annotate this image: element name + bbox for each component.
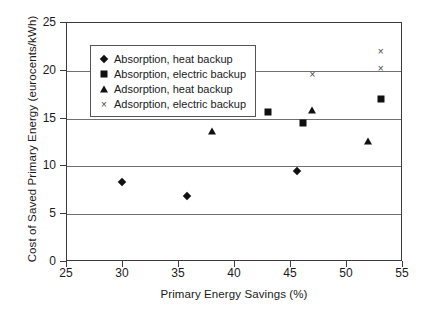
x-axis-tick-mark: [290, 261, 291, 267]
y-axis-tick-label: 5: [16, 207, 56, 219]
x-axis-tick-mark: [178, 261, 179, 267]
gridline: [67, 214, 401, 215]
x-axis-tick-mark: [402, 261, 403, 267]
y-axis-title: Cost of Saved Primary Energy (eurocents/…: [26, 14, 38, 264]
x-axis-tick-label: 45: [270, 267, 310, 279]
x-axis-tick-mark: [234, 261, 235, 267]
legend-item[interactable]: Absorption, heat backup: [97, 51, 246, 66]
y-axis-tick-mark: [60, 165, 66, 166]
x-axis-tick-mark: [346, 261, 347, 267]
scatter-chart-figure: Cost of Saved Primary Energy (eurocents/…: [0, 0, 428, 318]
diamond-marker-icon: [97, 52, 111, 66]
x-axis-tick-label: 40: [214, 267, 254, 279]
gridline: [67, 166, 401, 167]
data-point[interactable]: [308, 106, 316, 113]
square-marker-icon: [97, 67, 111, 81]
legend-item-label: Adsorption, electric backup: [114, 97, 246, 111]
legend-item-label: Adsorption, heat backup: [114, 82, 233, 96]
y-axis-tick-mark: [60, 213, 66, 214]
x-axis-tick-label: 50: [326, 267, 366, 279]
legend-item[interactable]: Absorption, electric backup: [97, 66, 246, 81]
data-point[interactable]: ×: [376, 63, 385, 72]
y-axis-tick-label: 0: [16, 255, 56, 267]
data-point[interactable]: [364, 137, 372, 144]
y-axis-tick-mark: [60, 22, 66, 23]
gridline: [67, 119, 401, 120]
data-point[interactable]: [208, 127, 216, 134]
data-point[interactable]: ×: [376, 46, 385, 55]
x-axis-tick-mark: [66, 261, 67, 267]
y-axis-tick-label: 10: [16, 159, 56, 171]
y-axis-tick-label: 25: [16, 16, 56, 28]
legend-item-label: Absorption, heat backup: [114, 52, 233, 66]
x-axis-tick-label: 30: [102, 267, 142, 279]
y-axis-tick-mark: [60, 118, 66, 119]
y-axis-tick-label: 20: [16, 64, 56, 76]
y-axis-tick-mark: [60, 70, 66, 71]
x-axis-tick-label: 25: [46, 267, 86, 279]
x-axis-tick-label: 55: [382, 267, 422, 279]
data-point[interactable]: [300, 120, 307, 127]
legend-item-label: Absorption, electric backup: [114, 67, 246, 81]
y-axis-tick-label: 15: [16, 112, 56, 124]
data-point[interactable]: [264, 108, 271, 115]
x-axis-tick-mark: [122, 261, 123, 267]
legend-item[interactable]: ×Adsorption, electric backup: [97, 96, 246, 111]
x-axis-tick-label: 35: [158, 267, 198, 279]
chart-legend: Absorption, heat backupAbsorption, elect…: [90, 45, 256, 117]
legend-item[interactable]: Adsorption, heat backup: [97, 81, 246, 96]
triangle-marker-icon: [97, 82, 111, 96]
x-axis-title: Primary Energy Savings (%): [66, 288, 402, 300]
data-point[interactable]: ×: [308, 69, 317, 78]
cross-marker-icon: ×: [97, 97, 111, 111]
data-point[interactable]: [377, 96, 384, 103]
